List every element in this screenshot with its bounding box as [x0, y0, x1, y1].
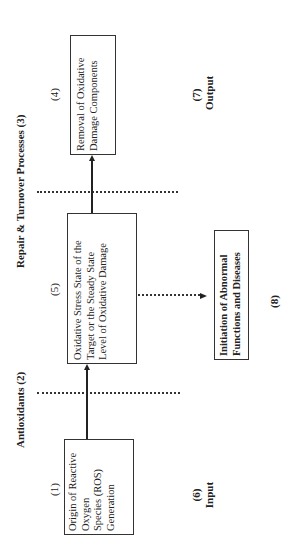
node-1-line-1: Origin of Reactive	[67, 443, 80, 531]
arrowhead-icon	[84, 364, 90, 370]
node-oxidative-stress-state: Oxidative Stress State of the Target or …	[67, 213, 137, 364]
node-4-number: (4)	[48, 88, 60, 101]
output-number: (7)	[190, 80, 202, 110]
node-ros-origin: Origin of Reactive Oxygen Species (ROS) …	[64, 439, 134, 535]
arrowhead-icon	[200, 293, 207, 299]
node-5-number: (5)	[48, 283, 60, 296]
edge-5-to-4	[91, 161, 93, 213]
header-antioxidants: Antioxidants (2)	[14, 372, 26, 448]
node-8-line-2: Functions and Diseases	[231, 234, 244, 356]
node-8-number: (8)	[268, 295, 280, 308]
node-abnormal-functions: Initiation of Abnormal Functions and Dis…	[214, 230, 249, 360]
node-1-number: (1)	[48, 483, 60, 496]
node-8-line-1: Initiation of Abnormal	[218, 234, 231, 356]
node-5-line-2: Target or the Steady State	[85, 217, 98, 360]
input-label: Input	[203, 480, 215, 510]
edge-5-to-8	[138, 294, 200, 296]
node-1-line-2: Oxygen	[80, 443, 93, 531]
node-1-line-3: Species (ROS)	[92, 443, 105, 531]
node-damage-removal: Removal of Oxidative Damage Components	[70, 35, 116, 155]
edge-1-to-5	[86, 370, 88, 439]
node-4-line-2: Damage Components	[88, 39, 101, 151]
node-4-line-1: Removal of Oxidative	[75, 39, 88, 151]
header-repair-turnover: Repair & Turnover Processes (3)	[14, 115, 26, 268]
diagram-canvas: Antioxidants (2) Repair & Turnover Proce…	[0, 0, 294, 558]
output-label: Output	[203, 80, 215, 110]
node-1-line-4: Generation	[105, 443, 118, 531]
node-5-line-1: Oxidative Stress State of the	[72, 217, 85, 360]
node-5-line-3: Level of Oxidative Damage	[97, 217, 110, 360]
antioxidant-barrier-line	[37, 392, 180, 394]
repair-barrier-line	[37, 191, 178, 193]
arrowhead-icon	[89, 155, 95, 161]
input-number: (6)	[190, 480, 202, 510]
